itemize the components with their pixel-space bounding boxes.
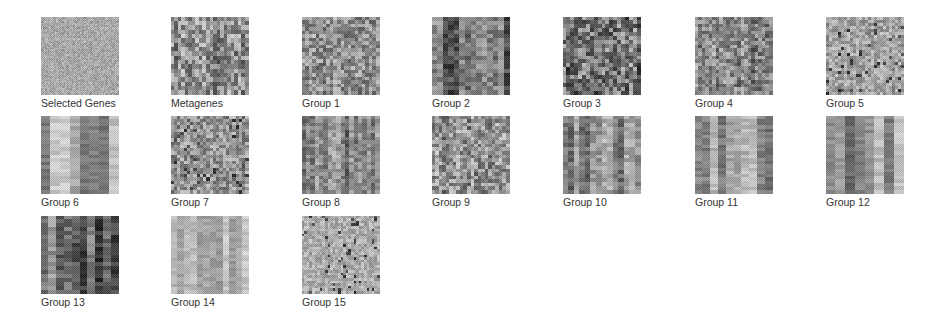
heatmap-panel-group-6: Group 6: [41, 116, 121, 208]
heatmap-panel-group-15: Group 15: [302, 216, 382, 308]
heatmap-image: [432, 116, 510, 194]
panel-label: Group 15: [302, 296, 382, 308]
heatmap-panel-group-13: Group 13: [41, 216, 121, 308]
heatmap-grid: Selected Genes Metagenes Group 1 Group 2…: [0, 0, 947, 315]
heatmap-image: [171, 116, 249, 194]
panel-label: Group 9: [432, 196, 512, 208]
panel-label: Group 1: [302, 97, 382, 109]
heatmap-panel-group-5: Group 5: [826, 17, 906, 109]
heatmap-image: [563, 116, 641, 194]
panel-label: Group 14: [171, 296, 251, 308]
heatmap-image: [41, 17, 119, 95]
panel-label: Group 2: [432, 97, 512, 109]
panel-label: Group 13: [41, 296, 121, 308]
heatmap-image: [826, 116, 904, 194]
heatmap-image: [302, 216, 380, 294]
heatmap-panel-group-1: Group 1: [302, 17, 382, 109]
panel-label: Group 3: [563, 97, 643, 109]
heatmap-panel-group-4: Group 4: [695, 17, 775, 109]
heatmap-image: [695, 17, 773, 95]
heatmap-image: [171, 17, 249, 95]
heatmap-image: [41, 216, 119, 294]
heatmap-panel-metagenes: Metagenes: [171, 17, 251, 109]
heatmap-image: [695, 116, 773, 194]
panel-label: Selected Genes: [41, 97, 121, 109]
panel-label: Metagenes: [171, 97, 251, 109]
panel-label: Group 5: [826, 97, 906, 109]
heatmap-image: [41, 116, 119, 194]
heatmap-panel-group-11: Group 11: [695, 116, 775, 208]
heatmap-panel-group-3: Group 3: [563, 17, 643, 109]
panel-label: Group 10: [563, 196, 643, 208]
heatmap-image: [826, 17, 904, 95]
panel-label: Group 7: [171, 196, 251, 208]
heatmap-image: [432, 17, 510, 95]
heatmap-panel-group-14: Group 14: [171, 216, 251, 308]
panel-label: Group 12: [826, 196, 906, 208]
heatmap-panel-group-9: Group 9: [432, 116, 512, 208]
heatmap-image: [302, 116, 380, 194]
panel-label: Group 8: [302, 196, 382, 208]
heatmap-panel-group-7: Group 7: [171, 116, 251, 208]
panel-label: Group 11: [695, 196, 775, 208]
heatmap-image: [171, 216, 249, 294]
heatmap-panel-group-2: Group 2: [432, 17, 512, 109]
heatmap-panel-selected-genes: Selected Genes: [41, 17, 121, 109]
heatmap-panel-group-12: Group 12: [826, 116, 906, 208]
heatmap-image: [563, 17, 641, 95]
heatmap-image: [302, 17, 380, 95]
panel-label: Group 4: [695, 97, 775, 109]
heatmap-panel-group-8: Group 8: [302, 116, 382, 208]
heatmap-panel-group-10: Group 10: [563, 116, 643, 208]
panel-label: Group 6: [41, 196, 121, 208]
